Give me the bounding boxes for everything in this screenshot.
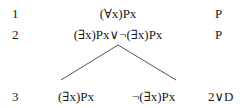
formula-line-3-left: (∃x)Px xyxy=(58,89,94,104)
formula-line-3-right: ¬(∃x)Px xyxy=(132,89,175,104)
justification-line-3: 2∨D xyxy=(208,89,233,104)
line-number-3: 3 xyxy=(12,89,19,104)
left-branch-line xyxy=(61,45,118,80)
right-branch-line xyxy=(118,45,176,80)
